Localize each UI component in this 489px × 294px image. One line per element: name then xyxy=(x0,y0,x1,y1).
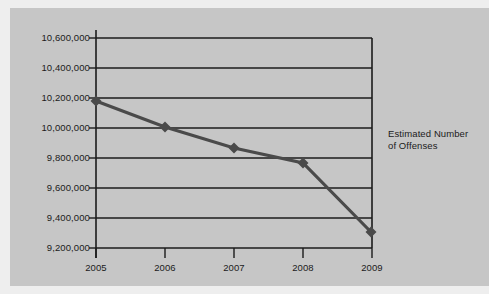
x-tick-label-2008: 2008 xyxy=(273,262,333,273)
series-annotation-line-1: Estimated Number xyxy=(388,128,484,140)
series-annotation-label: Estimated Number of Offenses xyxy=(388,128,484,151)
chart-figure: 10,600,000 10,400,000 10,200,000 10,000,… xyxy=(0,0,489,294)
x-tick-label-2006: 2006 xyxy=(135,262,195,273)
x-tick-label-2007: 2007 xyxy=(204,262,264,273)
series-annotation-line-2: of Offenses xyxy=(388,140,484,152)
x-tick-label-2005: 2005 xyxy=(66,262,126,273)
x-tick-label-2009: 2009 xyxy=(342,262,402,273)
